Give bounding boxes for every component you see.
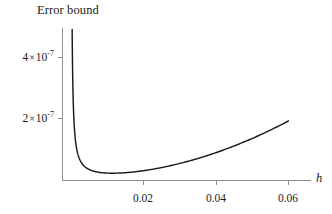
- y-tick-label-4e-7: 4×10-7: [22, 51, 54, 64]
- y-tick-label-2e-7-wrap: 2×10-7: [0, 112, 54, 124]
- x-tick-label-002: 0.02: [133, 192, 153, 204]
- x-axis-label: h: [316, 172, 322, 185]
- x-tick-label-004-wrap: 0.04: [193, 188, 239, 201]
- y-tick-label-2e-7: 2×10-7: [22, 112, 54, 125]
- plot-canvas: [0, 0, 332, 214]
- multiplication-sign-icon: ×: [28, 113, 36, 124]
- x-tick-label-002-wrap: 0.02: [120, 188, 166, 201]
- x-tick-label-004: 0.04: [206, 192, 226, 204]
- y-tick-marks: [58, 58, 63, 119]
- x-tick-label-006: 0.06: [278, 192, 298, 204]
- y-tick-base: 10: [36, 51, 48, 63]
- x-tick-label-006-wrap: 0.06: [265, 188, 311, 201]
- multiplication-sign-icon: ×: [28, 52, 36, 63]
- y-tick-exponent: -7: [47, 49, 54, 58]
- error-bound-curve: [72, 29, 288, 173]
- x-tick-marks: [144, 181, 289, 186]
- y-tick-label-4e-7-wrap: 4×10-7: [0, 51, 54, 63]
- error-bound-chart: Error bound 4×10-7 2×10-7 0.02 0.04: [0, 0, 332, 214]
- y-tick-base: 10: [36, 112, 48, 124]
- y-tick-exponent: -7: [47, 110, 54, 119]
